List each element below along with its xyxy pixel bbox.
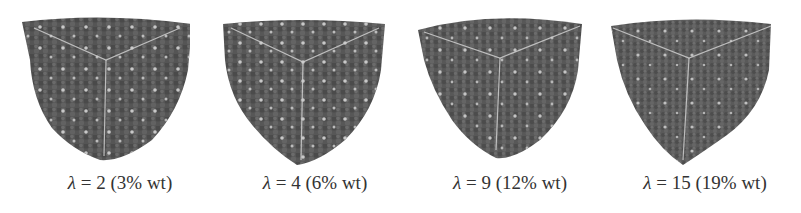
panel-lambda-15: λ = 15 (19% wt) — [605, 0, 801, 213]
weight-percent: (6% wt) — [305, 172, 367, 193]
lambda-symbol: λ — [263, 172, 271, 193]
particle-cube-image — [605, 0, 780, 170]
lambda-symbol: λ — [643, 172, 651, 193]
lambda-symbol: λ — [68, 172, 76, 193]
lambda-value: = 15 — [656, 172, 690, 193]
particle-cube-image — [215, 0, 385, 170]
lambda-value: = 2 — [81, 172, 106, 193]
weight-percent: (19% wt) — [695, 172, 766, 193]
panel-lambda-9: λ = 9 (12% wt) — [410, 0, 610, 213]
lambda-value: = 9 — [466, 172, 491, 193]
caption-lambda-15: λ = 15 (19% wt) — [605, 172, 801, 194]
caption-lambda-2: λ = 2 (3% wt) — [20, 172, 220, 194]
panel-lambda-4: λ = 4 (6% wt) — [215, 0, 415, 213]
caption-lambda-4: λ = 4 (6% wt) — [215, 172, 415, 194]
lambda-symbol: λ — [453, 172, 461, 193]
weight-percent: (3% wt) — [110, 172, 172, 193]
caption-lambda-9: λ = 9 (12% wt) — [410, 172, 610, 194]
weight-percent: (12% wt) — [496, 172, 567, 193]
particle-cube-image — [410, 0, 590, 170]
lambda-value: = 4 — [276, 172, 301, 193]
particle-cube-image — [20, 0, 190, 170]
panel-lambda-2: λ = 2 (3% wt) — [20, 0, 220, 213]
